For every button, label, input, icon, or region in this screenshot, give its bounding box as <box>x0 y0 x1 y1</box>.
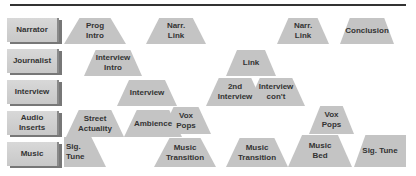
block-text: Vox Pops <box>322 110 342 130</box>
block-music-transition-2: Music Transition <box>226 138 288 167</box>
block-link: Link <box>226 50 276 76</box>
block-narr-link-2: Narr. Link <box>277 18 329 44</box>
block-text: Music Bed <box>309 141 332 161</box>
row-label-text: Audio Inserts <box>19 113 45 133</box>
block-street-actuality: Street Actuality <box>66 110 124 137</box>
block-text: Vox Pops <box>176 111 196 131</box>
block-text: Link <box>243 58 259 68</box>
block-vox-pops-2: Vox Pops <box>309 106 354 134</box>
block-narr-link-1: Narr. Link <box>146 18 206 44</box>
block-text: Narr. Link <box>294 21 312 41</box>
row-label-text: Music <box>21 149 44 159</box>
block-music-transition-1: Music Transition <box>154 138 216 167</box>
block-sig-tune-1: Sig. Tune <box>64 137 106 167</box>
block-prog-intro: Prog Intro <box>64 18 126 44</box>
block-text: Street Actuality <box>78 114 112 134</box>
row-label-music: Music <box>7 142 59 166</box>
block-text: Prog Intro <box>86 21 104 41</box>
row-label-text: Narrator <box>16 25 48 35</box>
block-text: Interview <box>130 88 165 98</box>
row-label-text: Journalist <box>13 56 51 66</box>
block-text: Interview con't <box>259 82 294 102</box>
row-label-journalist: Journalist <box>7 49 59 73</box>
block-interview-intro: Interview Intro <box>84 50 142 76</box>
row-label-text: Interview <box>15 87 50 97</box>
block-text: 2nd Interview <box>218 82 253 102</box>
block-text: Music Transition <box>238 143 276 163</box>
block-sig-tune-2: Sig. Tune <box>354 135 406 167</box>
top-divider-line <box>10 4 406 6</box>
block-text: Sig. Tune <box>66 142 85 162</box>
block-music-bed: Music Bed <box>288 135 352 167</box>
block-interview: Interview <box>117 80 177 106</box>
block-text: Music Transition <box>166 143 204 163</box>
block-interview-cont: Interview con't <box>247 78 305 106</box>
block-text: Ambience <box>134 119 172 129</box>
block-text: Interview Intro <box>96 53 131 73</box>
row-label-narrator: Narrator <box>7 18 59 42</box>
block-conclusion: Conclusion <box>340 18 394 44</box>
row-label-audio-inserts: Audio Inserts <box>7 111 59 135</box>
row-label-interview: Interview <box>7 80 59 104</box>
block-text: Conclusion <box>345 26 389 36</box>
block-text: Sig. Tune <box>362 146 397 156</box>
block-text: Narr. Link <box>167 21 185 41</box>
